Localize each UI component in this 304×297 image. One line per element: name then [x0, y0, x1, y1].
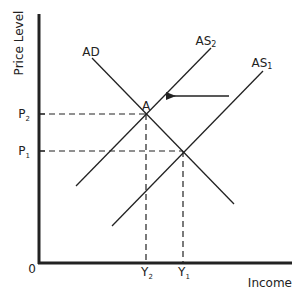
equilibrium-a-label: A — [142, 99, 151, 113]
y1-label: Y1 — [177, 265, 190, 281]
p1-label-main: P — [18, 144, 25, 158]
svg-text:Y2: Y2 — [140, 265, 153, 281]
svg-text:AS1: AS1 — [252, 56, 273, 71]
ad-label: AD — [82, 45, 99, 59]
p1-label: P1 — [18, 144, 30, 160]
y2-label: Y2 — [140, 265, 153, 281]
as1-label: AS1 — [252, 56, 273, 71]
as1-label-main: AS — [252, 56, 268, 70]
origin-label: 0 — [28, 262, 36, 276]
as1-label-subscript: 1 — [267, 62, 272, 71]
p2-label-main: P — [18, 107, 25, 121]
svg-text:P2: P2 — [18, 107, 30, 123]
x-axis-label: Income — [248, 276, 292, 290]
ad-curve — [92, 58, 234, 204]
as2-label-main: AS — [196, 34, 212, 48]
p1-label-subscript: 1 — [26, 152, 30, 160]
as2-label: AS2 — [196, 34, 217, 49]
p2-label: P2 — [18, 107, 30, 123]
svg-text:Y1: Y1 — [177, 265, 190, 281]
as2-label-subscript: 2 — [211, 40, 216, 49]
svg-text:AS2: AS2 — [196, 34, 217, 49]
as1-curve — [112, 71, 263, 226]
as2-curve — [76, 48, 211, 186]
svg-text:P1: P1 — [18, 144, 30, 160]
y2-label-subscript: 2 — [148, 273, 152, 281]
ad-as-diagram: Price Level Income 0 AD AS2 AS1 A P2 P1 … — [0, 0, 304, 297]
y1-label-subscript: 1 — [185, 273, 189, 281]
p2-label-subscript: 2 — [26, 115, 30, 123]
y-axis-label: Price Level — [12, 11, 26, 76]
